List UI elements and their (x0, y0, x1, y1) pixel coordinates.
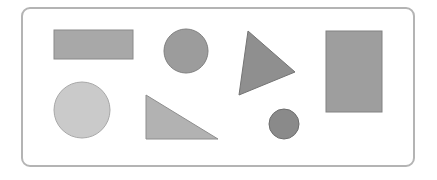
tall-rectangle (326, 31, 382, 112)
shapes-diagram (0, 0, 437, 180)
large-circle (54, 82, 110, 138)
small-circle (269, 109, 299, 139)
medium-circle (164, 29, 208, 73)
wide-rectangle (54, 30, 133, 59)
